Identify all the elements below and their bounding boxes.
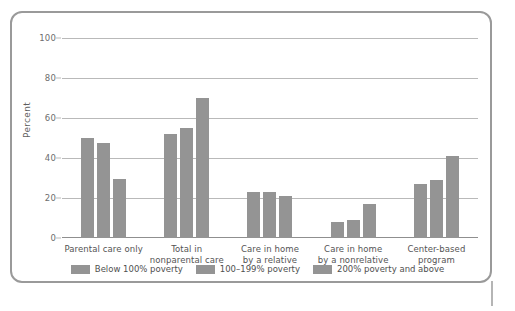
- bar[interactable]: [247, 192, 260, 238]
- bar[interactable]: [279, 196, 292, 238]
- legend-item[interactable]: 100–199% poverty: [196, 264, 300, 274]
- x-axis-tick-label: Care in home by a nonrelative: [312, 244, 395, 265]
- y-axis-tick-label: 40: [45, 153, 56, 163]
- bar-group: [228, 38, 311, 238]
- bar[interactable]: [164, 134, 177, 238]
- plot-area: 020406080100: [62, 38, 478, 238]
- legend-item[interactable]: 200% poverty and above: [313, 264, 444, 274]
- frame-tail-line: [491, 281, 493, 306]
- legend-label: 100–199% poverty: [220, 264, 300, 274]
- y-axis-tick-label: 60: [45, 113, 56, 123]
- x-axis-tick-label: Care in home by a relative: [228, 244, 311, 265]
- bar[interactable]: [113, 179, 126, 238]
- legend-swatch-icon: [196, 265, 215, 274]
- legend-label: 200% poverty and above: [337, 264, 444, 274]
- y-axis-tick-label: 20: [45, 193, 56, 203]
- bar[interactable]: [263, 192, 276, 238]
- x-axis-tick-label: Parental care only: [62, 244, 145, 255]
- bar[interactable]: [414, 184, 427, 238]
- bar[interactable]: [97, 143, 110, 238]
- y-axis-title: Percent: [22, 102, 32, 138]
- bar[interactable]: [331, 222, 344, 238]
- y-axis-tick-label: 80: [45, 73, 56, 83]
- bar-group: [62, 38, 145, 238]
- legend-item[interactable]: Below 100% poverty: [71, 264, 183, 274]
- bar[interactable]: [430, 180, 443, 238]
- legend-swatch-icon: [313, 265, 332, 274]
- y-axis-tick-label: 100: [39, 33, 56, 43]
- bar[interactable]: [347, 220, 360, 238]
- bar[interactable]: [196, 98, 209, 238]
- y-axis-tick-mark: [56, 38, 61, 39]
- y-axis-tick-mark: [56, 78, 61, 79]
- bar-group: [395, 38, 478, 238]
- legend-label: Below 100% poverty: [95, 264, 183, 274]
- y-axis-tick-mark: [56, 238, 61, 239]
- y-axis-tick-mark: [56, 198, 61, 199]
- bar[interactable]: [363, 204, 376, 238]
- x-axis-tick-label: Total in nonparental care: [145, 244, 228, 265]
- legend-swatch-icon: [71, 265, 90, 274]
- x-axis-tick-label: Center-based program: [395, 244, 478, 265]
- bar[interactable]: [446, 156, 459, 238]
- bar-group: [312, 38, 395, 238]
- bar[interactable]: [180, 128, 193, 238]
- bar-group: [145, 38, 228, 238]
- bar[interactable]: [81, 138, 94, 238]
- y-axis-tick-label: 0: [50, 233, 56, 243]
- y-axis-tick-mark: [56, 158, 61, 159]
- chart-legend: Below 100% poverty100–199% poverty200% p…: [0, 264, 515, 274]
- chart-figure: Percent 020406080100 Below 100% poverty1…: [0, 0, 515, 311]
- y-axis-tick-mark: [56, 118, 61, 119]
